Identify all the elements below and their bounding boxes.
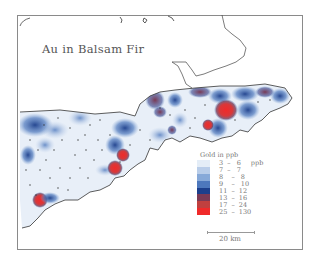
legend-row: 3 – 6 ppb bbox=[197, 160, 297, 167]
islet bbox=[120, 16, 174, 23]
legend-swatch bbox=[197, 181, 210, 188]
legend-row: 25 – 130 bbox=[197, 208, 297, 215]
legend-unit: ppb bbox=[251, 159, 263, 167]
legend-swatch bbox=[197, 174, 210, 181]
legend-swatch bbox=[197, 194, 210, 201]
mainland-coast bbox=[172, 15, 246, 88]
map-canvas bbox=[0, 0, 320, 264]
legend-swatch bbox=[197, 167, 210, 174]
legend-swatch bbox=[197, 160, 210, 167]
map-title: Au in Balsam Fir bbox=[42, 42, 144, 56]
legend-title: Gold in ppb bbox=[200, 151, 297, 159]
legend-swatch bbox=[197, 201, 210, 208]
legend-row: 7 – 7 bbox=[197, 167, 297, 174]
scale-bar-label: 20 km bbox=[219, 235, 241, 243]
legend-range: 25 – 130 bbox=[219, 208, 251, 216]
legend-swatch bbox=[197, 208, 210, 215]
scale-bar bbox=[207, 232, 255, 233]
legend-swatch bbox=[197, 188, 210, 195]
northwest-coast bbox=[20, 18, 30, 26]
legend: Gold in ppb 3 – 6 ppb 7 – 7 8 – 8 9 – 10… bbox=[197, 151, 297, 215]
